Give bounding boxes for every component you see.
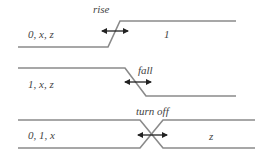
rise-left-state-label: 0, x, z	[28, 29, 54, 40]
turnoff-label: turn off	[136, 106, 169, 117]
fall-left-state-label: 1, x, z	[28, 79, 54, 90]
rise-label: rise	[93, 4, 110, 15]
turnoff-left-state-label: 0, 1, x	[28, 130, 55, 141]
fall-label: fall	[138, 65, 153, 76]
turnoff-right-state-label: z	[209, 131, 213, 142]
rise-right-state-label: 1	[164, 29, 170, 40]
